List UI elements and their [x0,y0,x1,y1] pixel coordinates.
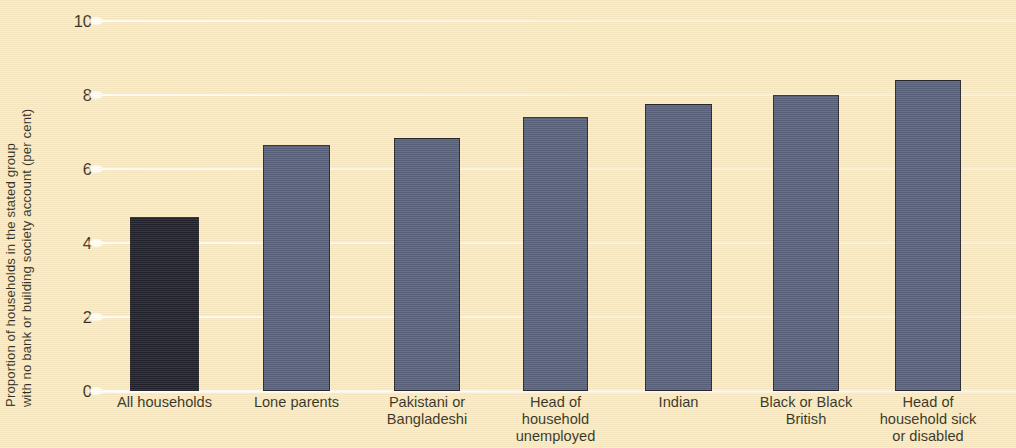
x-axis-category-label-line: or disabled [838,428,1016,445]
plot-area [98,0,1016,391]
gridline [98,94,1016,96]
bar [895,80,961,391]
y-axis-title: Proportion of households in the stated g… [0,0,64,400]
bar [394,138,460,391]
y-axis-tick-mark [88,165,104,174]
x-axis-category-label-line: household [466,411,646,428]
bar [645,104,712,391]
x-axis-category-labels: All householdsLone parentsPakistani orBa… [98,394,1016,448]
bar [773,95,839,391]
y-axis-tick-mark [88,91,104,100]
y-axis-title-line-1: Proportion of households in the stated g… [3,143,18,407]
bar-chart: Proportion of households in the stated g… [0,0,1016,448]
bar [130,217,199,391]
x-axis-category-label-line: household sick [838,411,1016,428]
y-axis-tick-labels: 0246810 [60,0,92,448]
x-axis-category-label-line: Head of [838,394,1016,411]
y-axis-title-line-2: with no bank or building society account… [19,109,34,407]
bar [263,145,330,391]
bar [523,117,588,391]
y-axis-tick-mark [88,239,104,248]
gridline [98,20,1016,22]
x-axis-category-label: Head ofhousehold sickor disabled [838,394,1016,445]
y-axis-tick-mark [88,17,104,26]
x-axis-category-label-line: unemployed [466,428,646,445]
y-axis-tick-mark [88,313,104,322]
